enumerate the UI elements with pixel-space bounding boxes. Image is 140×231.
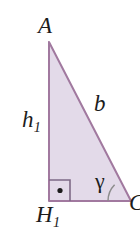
angle-label-gamma: γ <box>95 170 105 192</box>
side-label-height-base: h <box>22 107 34 132</box>
triangle-drawing <box>0 0 140 231</box>
vertex-label-a: A <box>38 14 52 37</box>
triangle-shape <box>49 42 131 201</box>
vertex-label-h1: H1 <box>36 203 60 226</box>
geometry-figure: A h1 b γ H1 C <box>0 0 140 231</box>
vertex-label-h1-base: H <box>36 202 53 227</box>
right-angle-dot-icon <box>57 188 62 193</box>
vertex-label-h1-subscript: 1 <box>53 214 60 230</box>
side-label-height-h1: h1 <box>22 108 41 131</box>
side-label-height-subscript: 1 <box>34 119 41 135</box>
side-label-hypotenuse-b: b <box>94 92 106 115</box>
vertex-label-c: C <box>129 191 140 214</box>
